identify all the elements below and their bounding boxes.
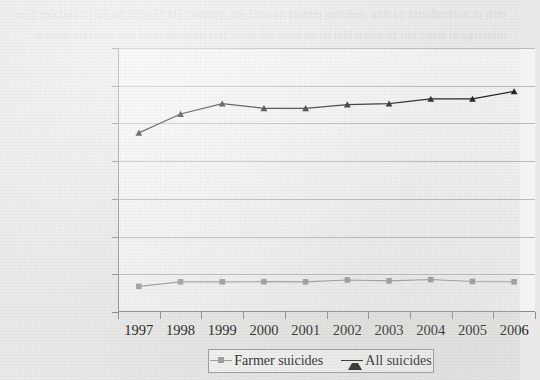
legend-entry-all-suicides[interactable]: All suicides: [341, 353, 432, 369]
data-point-marker-square: [219, 279, 225, 285]
legend-marker-square-icon: [210, 355, 232, 367]
series-line: [139, 280, 514, 287]
data-point-marker-square: [303, 279, 309, 285]
data-point-marker-square: [261, 279, 267, 285]
series-line: [139, 91, 514, 132]
data-point-marker-square: [511, 279, 517, 285]
data-point-marker-square: [470, 279, 476, 285]
data-point-marker-triangle: [135, 130, 142, 136]
data-point-marker-square: [136, 284, 142, 290]
data-point-marker-square: [386, 278, 392, 284]
series-all-suicides: [135, 88, 517, 136]
series-farmer-suicides: [136, 277, 517, 289]
legend-marker-triangle-icon: [341, 355, 363, 367]
data-point-marker-square: [178, 279, 184, 285]
line-chart-figure: 020000400006000080000100000120000140000 …: [40, 16, 480, 364]
chart-legend: Farmer suicides All suicides: [208, 349, 434, 373]
legend-label-all-suicides: All suicides: [365, 353, 432, 369]
legend-entry-farmer-suicides[interactable]: Farmer suicides: [210, 353, 323, 369]
series-layer: [40, 16, 540, 380]
legend-label-farmer-suicides: Farmer suicides: [234, 353, 323, 369]
data-point-marker-square: [428, 277, 434, 283]
data-point-marker-square: [345, 277, 351, 283]
